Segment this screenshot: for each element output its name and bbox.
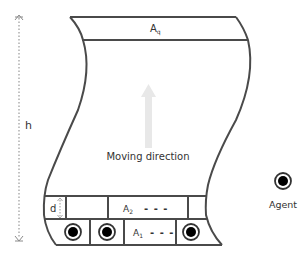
row-upper-label: A2 — [123, 204, 133, 215]
row-lower-label: A1 — [133, 228, 143, 239]
row-lower-dashes: - - - — [150, 227, 174, 238]
d-indicator: d — [50, 198, 63, 218]
agent-1 — [65, 224, 81, 240]
height-label: h — [25, 119, 32, 132]
height-indicator: h — [15, 15, 32, 241]
agent-icon — [275, 173, 291, 189]
agent-3 — [183, 224, 199, 240]
legend-agent-label: Agent — [269, 199, 297, 210]
row-upper-dashes: - - - — [144, 203, 168, 214]
legend: Agent — [269, 173, 297, 210]
arrow-down-icon — [15, 236, 23, 241]
top-area-label: Aq — [150, 23, 161, 36]
diagram-canvas: h Aq Moving direction d — [0, 0, 308, 255]
d-label: d — [50, 203, 56, 214]
moving-direction-label: Moving direction — [106, 151, 189, 162]
agent-2 — [99, 224, 115, 240]
moving-direction-arrow — [141, 84, 156, 148]
